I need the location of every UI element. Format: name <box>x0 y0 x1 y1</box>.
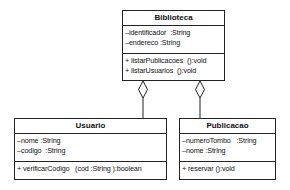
operation: + listarUsuarios ():void <box>125 66 222 76</box>
attribute: –nome :String <box>182 146 273 156</box>
attribute: –endereco :String <box>125 38 222 48</box>
class-name: Usuario <box>15 119 166 134</box>
attributes-compartment: –nome :String –codigo :String <box>15 134 166 162</box>
operations-compartment: + listarPublicacoes ():void + listarUsua… <box>123 54 224 77</box>
attribute: –nome :String <box>17 136 164 146</box>
aggregation-biblioteca-usuario <box>139 81 148 118</box>
operation: + verificarCodigo (cod :String ):boolean <box>17 164 164 174</box>
attribute: –codigo :String <box>17 146 164 156</box>
attributes-compartment: –identificador :String –endereco :String <box>123 26 224 54</box>
aggregation-biblioteca-publicacao <box>196 81 205 118</box>
operation: + reservar ():void <box>182 164 273 174</box>
operation: + listarPublicacoes ():void <box>125 56 222 66</box>
class-usuario[interactable]: Usuario –nome :String –codigo :String + … <box>14 118 167 180</box>
attribute: –identificador :String <box>125 28 222 38</box>
class-biblioteca[interactable]: Biblioteca –identificador :String –ender… <box>122 10 225 81</box>
operations-compartment: + reservar ():void <box>180 162 275 175</box>
class-name: Publicacao <box>180 119 275 134</box>
attribute: –numeroTombo :String <box>182 136 273 146</box>
aggregation-diamond-icon <box>139 81 148 98</box>
operations-compartment: + verificarCodigo (cod :String ):boolean <box>15 162 166 175</box>
class-publicacao[interactable]: Publicacao –numeroTombo :String –nome :S… <box>179 118 276 180</box>
class-name: Biblioteca <box>123 11 224 26</box>
attributes-compartment: –numeroTombo :String –nome :String <box>180 134 275 162</box>
aggregation-diamond-icon <box>196 81 205 98</box>
